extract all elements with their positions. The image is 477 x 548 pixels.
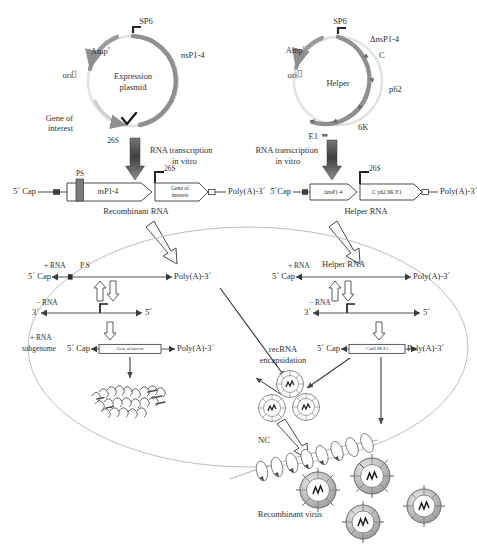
recombinant-rna-gene: Gene of interest <box>171 185 189 198</box>
right-subgenome-polya: Poly(A)-3´ <box>407 344 444 354</box>
recombinant-rna-cap: 5´ Cap <box>13 187 36 197</box>
right-transcription-caption: RNA transcription in vitro <box>255 145 318 167</box>
left-replication-arrows <box>94 281 119 301</box>
right-minus-rna-3prime: 3´ <box>304 308 311 318</box>
helper-rna-26s: 26S <box>369 165 381 173</box>
recombinant-rna-orf1: nsP1-4 <box>98 188 119 196</box>
left-plasmid-amp-label: Ampr <box>91 45 110 56</box>
right-plus-rna-cap: 5´ Cap <box>272 272 295 282</box>
transcription-arrow-left <box>126 138 145 180</box>
right-plasmid-promoter-label: SP6 <box>333 17 347 27</box>
right-plasmid-gene-e1: E1 <box>309 132 318 142</box>
left-plasmid-ori-label: ori <box>63 71 72 81</box>
left-plasmid-nsp-label: nsP1-4 <box>181 51 205 61</box>
helper-rna-cap: 5´Cap <box>270 187 291 197</box>
right-plus-rna-name: Helper RNA <box>322 260 365 270</box>
recombinant-rna-caption: Recombinant RNA <box>103 207 168 217</box>
left-subgenome-plus-label: + RNA <box>30 334 52 342</box>
helper-rna-structural: C p62 6K E1 <box>372 189 401 195</box>
left-plasmid-26s-label: 26S <box>107 137 119 145</box>
recombinant-rna-26s: 26S <box>164 165 176 173</box>
left-subgenome-label: subgenome <box>22 345 56 353</box>
nucleocapsid-label: NC <box>258 436 270 446</box>
helper-rna-polya: Poly(A)-3´ <box>440 187 477 197</box>
left-subgenome-cap: 5´ Cap <box>67 344 90 354</box>
right-plus-rna-label: + RNA <box>288 262 310 270</box>
left-plus-rna-label: + RNA <box>44 262 66 270</box>
recombinant-virions <box>296 454 445 543</box>
right-plus-strand <box>296 274 411 281</box>
helper-rna-orf1: ΔnsP1-4 <box>323 189 342 195</box>
right-minus-rna-label: − RNA <box>309 299 331 307</box>
left-plus-rna-polya: Poly(A)-3´ <box>174 272 211 282</box>
right-subgenome-arrow <box>373 322 385 340</box>
left-transcription-caption: RNA transcription in vitro <box>150 145 213 167</box>
right-plasmid-gene-dnsp: ΔnsP1-4 <box>370 35 399 45</box>
right-plasmid-name: Helper <box>326 79 349 89</box>
left-minus-rna-3prime: 3´ <box>32 308 39 318</box>
right-plasmid-amp-label: Ampr <box>286 44 305 55</box>
recombinant-virus-label: Recombinant virus <box>258 510 322 520</box>
left-minus-rna-label: − RNA <box>36 299 58 307</box>
right-plasmid-ori-label: ori <box>288 71 297 81</box>
left-subgenome-arrow <box>104 322 116 340</box>
left-subgenome-polya: Poly(A)-3´ <box>177 344 214 354</box>
right-subgenome-gene: C p62 6K E1 <box>366 347 388 352</box>
right-minus-rna-5prime: 5´ <box>423 308 430 318</box>
right-plus-rna-polya: Poly(A)-3´ <box>413 272 450 282</box>
helper-rna-graphic <box>293 172 438 200</box>
left-plus-rna-cap: 5´ Cap <box>28 272 51 282</box>
recombinant-rna-ps: PS <box>76 170 84 178</box>
left-minus-rna-5prime: 5´ <box>145 308 152 318</box>
left-plus-strand <box>52 274 172 281</box>
nucleocapsid-particles <box>259 371 320 422</box>
left-plus-rna-ps: P S <box>80 262 90 270</box>
left-plasmid-promoter-label: SP6 <box>139 17 153 27</box>
recombinant-rna-graphic <box>38 172 226 201</box>
left-plasmid-gene-label: Gene of interest <box>46 113 73 134</box>
encapsidation-label: recRNA encapsidation <box>260 344 307 365</box>
right-plasmid-gene-p62: p62 <box>389 85 402 95</box>
right-replication-arrows <box>329 281 354 301</box>
transcription-arrow-right <box>323 140 342 180</box>
right-plasmid-gene-c: C <box>379 51 385 61</box>
left-subgenome-gene: Gene of interest <box>117 347 143 352</box>
left-plasmid-name: Expression plasmid <box>114 71 152 92</box>
right-plasmid-gene-6k: 6K <box>358 123 368 133</box>
protein-product-cluster <box>92 386 165 418</box>
entry-arrow-left <box>146 221 177 264</box>
recombinant-rna-polya: Poly(A)-3´ <box>228 187 265 197</box>
helper-rna-caption: Helper RNA <box>344 207 387 217</box>
right-subgenome-cap: 5´ Cap <box>317 344 340 354</box>
